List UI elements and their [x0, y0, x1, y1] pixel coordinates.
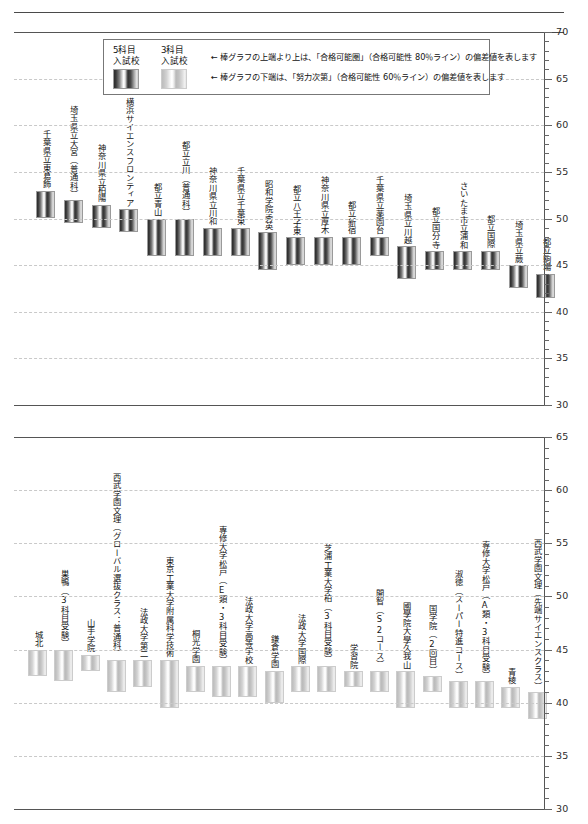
- y-tick-minor: [544, 60, 549, 61]
- bar: [36, 191, 55, 219]
- bar: [475, 681, 494, 708]
- y-tick-label: 35: [556, 751, 569, 761]
- bar-category-label: 都立八王子東: [291, 185, 301, 235]
- y-tick-major: [544, 756, 552, 757]
- y-tick-minor: [544, 788, 549, 789]
- y-tick-minor: [544, 713, 549, 714]
- axis-line-top: [14, 437, 544, 438]
- y-tick-minor: [544, 163, 549, 164]
- bar-category-label: 神奈川県立柏陽: [96, 144, 106, 203]
- bar: [175, 219, 194, 256]
- y-tick-minor: [544, 116, 549, 117]
- legend-swatch-dark-icon: [113, 69, 139, 89]
- bar: [314, 237, 333, 265]
- y-tick-major: [544, 265, 552, 266]
- y-tick-minor: [544, 522, 549, 523]
- y-tick-minor: [544, 766, 549, 767]
- y-tick-label: 60: [556, 121, 569, 131]
- y-tick-minor: [544, 448, 549, 449]
- bar-category-label: 埼玉県立蕨: [513, 221, 523, 263]
- bar-category-label: 城北: [33, 631, 43, 648]
- y-tick-label: 55: [556, 539, 569, 549]
- y-tick-minor: [544, 368, 549, 369]
- bar-category-label: さいたま市立浦和: [458, 182, 468, 249]
- bar: [481, 251, 500, 270]
- bar: [147, 219, 166, 256]
- bar-category-label: 青稜: [506, 668, 516, 685]
- gridline: [14, 703, 544, 704]
- y-tick-minor: [544, 51, 549, 52]
- gridline: [14, 312, 544, 313]
- y-tick-minor: [544, 745, 549, 746]
- y-tick-major: [544, 79, 552, 80]
- y-tick-minor: [544, 135, 549, 136]
- y-tick-minor: [544, 469, 549, 470]
- y-tick-label: 45: [556, 645, 569, 655]
- y-tick-minor: [544, 533, 549, 534]
- bar: [370, 237, 389, 256]
- y-tick-minor: [544, 458, 549, 459]
- bar: [92, 205, 111, 228]
- y-tick-minor: [544, 798, 549, 799]
- y-tick-minor: [544, 209, 549, 210]
- bar: [425, 251, 444, 270]
- y-tick-label: 50: [556, 592, 569, 602]
- bar: [203, 228, 222, 256]
- y-tick-minor: [544, 41, 549, 42]
- y-tick-major: [544, 596, 552, 597]
- bar: [64, 200, 83, 223]
- y-tick-label: 40: [556, 698, 569, 708]
- y-tick-minor: [544, 565, 549, 566]
- y-tick-minor: [544, 256, 549, 257]
- bar-category-label: 埼玉県立川越: [402, 194, 412, 244]
- y-tick-minor: [544, 349, 549, 350]
- bar-category-label: 学習院: [348, 644, 358, 669]
- bar: [265, 671, 284, 703]
- bar-category-label: 開智（S2コース）: [374, 589, 384, 669]
- y-tick-major: [544, 650, 552, 651]
- bar: [370, 671, 389, 692]
- gridline: [14, 172, 544, 173]
- bar-category-label: 都立国分寺: [430, 207, 440, 249]
- y-tick-minor: [544, 501, 549, 502]
- y-tick-minor: [544, 69, 549, 70]
- bar-category-label: 千葉県立薬園台: [374, 176, 384, 235]
- y-tick-label: 65: [556, 74, 569, 84]
- bar-category-label: 専修大学松戸（E類・3科目受験）: [217, 526, 227, 664]
- y-tick-minor: [544, 88, 549, 89]
- y-tick-major: [544, 219, 552, 220]
- bar: [501, 687, 520, 708]
- y-tick-label: 45: [556, 260, 569, 270]
- legend-key-three-subject: 3科目 入試校: [161, 45, 205, 66]
- legend-notes: ← 棒グラフの上端より上は、「合格可能圏」（合格可能性 80％ライン）の偏差値を…: [211, 52, 483, 92]
- y-tick-minor: [544, 144, 549, 145]
- y-tick-minor: [544, 237, 549, 238]
- bar: [212, 666, 231, 698]
- bar-category-label: 千葉県立千葉東: [235, 167, 245, 226]
- y-tick-minor: [544, 302, 549, 303]
- bar-category-label: 国学院（2回目）: [427, 605, 437, 674]
- bar: [238, 666, 257, 698]
- bar-category-label: 桐光学園: [190, 630, 200, 664]
- bar-category-label: 昭和学院秀英: [263, 180, 273, 230]
- bar-category-label: 埼玉県立大宮（普通科）: [68, 106, 78, 198]
- bar-category-label: 都立立川（普通科）: [180, 141, 190, 217]
- y-tick-label: 40: [556, 307, 569, 317]
- y-tick-minor: [544, 480, 549, 481]
- legend-key-five-subject-line2: 入試校: [113, 56, 157, 67]
- y-tick-major: [544, 809, 552, 810]
- y-tick-major: [544, 358, 552, 359]
- y-tick-minor: [544, 607, 549, 608]
- y-tick-major: [544, 437, 552, 438]
- y-tick-minor: [544, 107, 549, 108]
- bar-category-label: 専修大学松戸（A類・3科目受験）: [480, 541, 490, 679]
- gridline: [14, 543, 544, 544]
- gridline: [14, 490, 544, 491]
- y-tick-minor: [544, 396, 549, 397]
- bar: [119, 209, 138, 232]
- y-tick-minor: [544, 681, 549, 682]
- bar: [509, 265, 528, 288]
- y-tick-label: 55: [556, 167, 569, 177]
- gridline: [14, 265, 544, 266]
- gridline: [14, 219, 544, 220]
